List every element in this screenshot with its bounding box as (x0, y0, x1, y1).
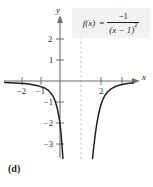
formula-callout: f(x) = −1 (x − 1)2 (72, 8, 150, 38)
figure-caption-label: (d) (8, 163, 20, 174)
formula-equals-sign: = (99, 18, 104, 28)
x-tick-label-neg1: −1 (36, 87, 45, 96)
y-axis-arrowhead (57, 15, 63, 23)
formula-denominator-base: (x − 1) (109, 25, 134, 35)
curve-left-branch (5, 83, 63, 159)
y-axis-label: y (56, 6, 60, 15)
y-tick-label-neg2: −2 (44, 119, 53, 128)
formula-numerator: −1 (116, 12, 130, 22)
y-tick-label-neg3: −3 (44, 140, 53, 149)
x-axis-label: x (142, 73, 146, 82)
y-tick-label-neg1: −1 (44, 98, 53, 107)
figure-container: y x −2 −1 2 2 1 −1 −2 −3 f(x) = −1 (x − … (0, 0, 153, 187)
formula-expression: f(x) = −1 (x − 1)2 (72, 8, 150, 38)
formula-fraction: −1 (x − 1)2 (107, 12, 139, 35)
formula-denominator-exponent: 2 (134, 22, 137, 28)
formula-denominator: (x − 1)2 (107, 23, 139, 35)
y-tick-label-pos2: 2 (48, 35, 52, 44)
x-tick-label-pos2: 2 (99, 87, 103, 96)
y-tick-label-pos1: 1 (49, 56, 53, 65)
formula-function-label: f(x) (83, 18, 96, 28)
x-tick-label-neg2: −2 (17, 87, 26, 96)
